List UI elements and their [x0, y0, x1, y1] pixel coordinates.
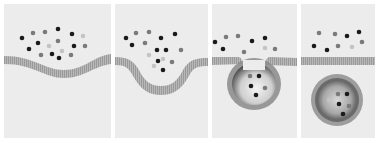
- panel-stage-4: [301, 4, 375, 138]
- panel-stage-1: [4, 4, 111, 138]
- panel-stage-3: [212, 4, 297, 138]
- stage-1-illustration: [4, 4, 111, 138]
- vesicle-lumen: [318, 81, 356, 119]
- panel-stage-2: [115, 4, 208, 138]
- cell-membrane-invagination: [115, 57, 208, 95]
- stage-4-illustration: [301, 4, 375, 138]
- stage-3-illustration: [212, 4, 297, 138]
- cell-membrane: [301, 57, 375, 65]
- particles: [20, 27, 88, 61]
- stage-2-illustration: [115, 4, 208, 138]
